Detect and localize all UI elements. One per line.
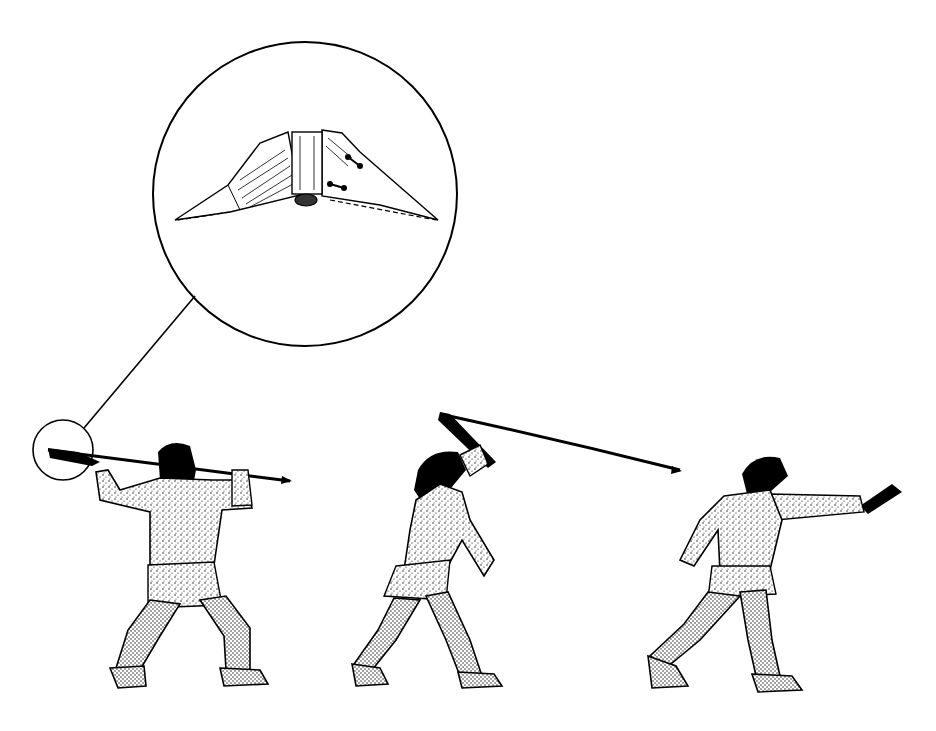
figure-1-windup — [48, 443, 292, 688]
figure-2-midthrow — [352, 412, 682, 688]
magnifier-leader-line — [84, 296, 195, 428]
figure-3-followthrough — [648, 457, 902, 692]
atlatl-illustration — [0, 0, 936, 731]
magnifier-group — [33, 42, 457, 480]
magnified-atlatl-weight — [175, 130, 438, 220]
